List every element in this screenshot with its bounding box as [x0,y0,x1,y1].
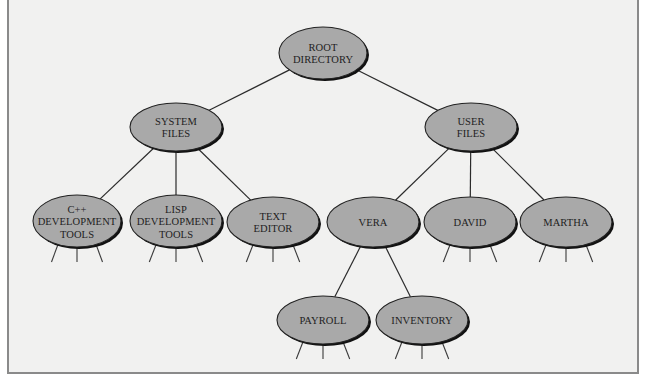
node-label: TEXT [259,211,287,222]
node-label: DIRECTORY [293,54,354,65]
edge-system-files-to-text-editor [198,148,251,200]
node-system-files: SYSTEMFILES [130,103,224,153]
node-root: ROOTDIRECTORY [279,27,369,81]
node-vera: VERA [327,197,421,249]
node-label: INVENTORY [391,315,453,326]
node-label: SYSTEM [155,116,198,127]
node-martha: MARTHA [520,197,614,249]
edge-user-files-to-martha [492,148,544,200]
node-label: DAVID [454,217,487,228]
node-lisp-dev-tools: LISPDEVELOPMENTTOOLS [130,195,224,249]
node-label: VERA [359,217,388,228]
node-ellipse [227,197,319,247]
nodes-layer: ROOTDIRECTORYSYSTEMFILESUSERFILESC++DEVE… [33,27,614,346]
directory-tree-diagram: ROOTDIRECTORYSYSTEMFILESUSERFILESC++DEVE… [0,0,650,386]
node-ellipse [279,27,367,79]
node-ellipse [425,103,517,151]
node-label: LISP [165,204,187,215]
node-label: MARTHA [543,217,589,228]
edge-vera-to-payroll [335,246,361,297]
node-label: EDITOR [254,223,293,234]
node-ellipse [130,103,222,151]
edge-user-files-to-vera [396,148,450,200]
node-payroll: PAYROLL [277,296,371,346]
node-inventory: INVENTORY [376,296,470,346]
node-label: DEVELOPMENT [38,216,117,227]
node-label: TOOLS [60,229,94,240]
edge-root-to-user-files [357,70,438,111]
node-cpp-dev-tools: C++DEVELOPMENTTOOLS [33,195,123,249]
node-label: TOOLS [159,229,193,240]
node-label: FILES [162,128,191,139]
node-label: PAYROLL [299,315,346,326]
edge-vera-to-inventory [385,246,410,297]
node-text-editor: TEXTEDITOR [227,197,321,249]
node-user-files: USERFILES [425,103,519,153]
node-label: USER [457,116,484,127]
node-label: C++ [67,204,86,215]
node-label: FILES [457,128,486,139]
node-label: ROOT [309,42,338,53]
edge-system-files-to-cpp-dev-tools [100,148,154,199]
edge-root-to-system-files [209,70,289,110]
node-david: DAVID [424,197,518,249]
node-label: DEVELOPMENT [137,216,216,227]
